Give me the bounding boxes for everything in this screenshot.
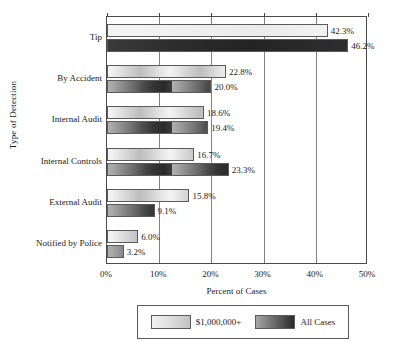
bar-value-label: 19.4% bbox=[211, 124, 234, 133]
bar-dark bbox=[107, 39, 348, 52]
chart-legend: $1,000,000+ All Cases bbox=[137, 305, 349, 339]
bar-value-label: 22.8% bbox=[229, 68, 252, 77]
bar-value-label: 18.6% bbox=[207, 109, 230, 118]
category-label: Internal Audit bbox=[52, 114, 102, 124]
bar-value-label: 9.1% bbox=[158, 207, 177, 216]
bar-group: Notified by Police6.0%3.2% bbox=[107, 224, 366, 265]
bar-dark bbox=[107, 121, 208, 134]
x-tick-label: 0% bbox=[100, 269, 112, 279]
category-label: Notified by Police bbox=[36, 238, 102, 248]
bar-group: Tip42.3%46.2% bbox=[107, 17, 366, 58]
bar-dark bbox=[107, 245, 124, 258]
x-axis-title: Percent of Cases bbox=[106, 286, 367, 296]
plot-area: Tip42.3%46.2%By Accident22.8%20.0%Intern… bbox=[106, 16, 367, 264]
legend-swatch-dark-icon bbox=[255, 315, 295, 329]
category-label: External Audit bbox=[49, 197, 102, 207]
bar-group: Internal Audit18.6%19.4% bbox=[107, 100, 366, 141]
bar-value-label: 15.8% bbox=[192, 192, 215, 201]
bar-light bbox=[107, 24, 328, 37]
bar-dark bbox=[107, 80, 211, 93]
x-tick bbox=[368, 13, 369, 17]
bar-dark bbox=[107, 204, 155, 217]
legend-label-light: $1,000,000+ bbox=[196, 317, 242, 327]
bar-value-label: 20.0% bbox=[214, 83, 237, 92]
legend-swatch-light-icon bbox=[151, 315, 191, 329]
x-tick-label: 20% bbox=[202, 269, 219, 279]
bar-value-label: 3.2% bbox=[127, 248, 146, 257]
bar-value-label: 16.7% bbox=[197, 151, 220, 160]
bar-dark bbox=[107, 163, 229, 176]
category-label: By Accident bbox=[57, 73, 102, 83]
x-tick-label: 30% bbox=[254, 269, 271, 279]
legend-label-dark: All Cases bbox=[300, 317, 335, 327]
bar-light bbox=[107, 65, 226, 78]
bar-value-label: 23.3% bbox=[232, 166, 255, 175]
x-tick-label: 10% bbox=[150, 269, 167, 279]
y-axis-title: Type of Detection bbox=[8, 50, 18, 180]
bar-value-label: 42.3% bbox=[331, 27, 354, 36]
bar-group: Internal Controls16.7%23.3% bbox=[107, 141, 366, 182]
x-tick-label: 50% bbox=[359, 269, 376, 279]
legend-item-dark: All Cases bbox=[255, 315, 335, 329]
bar-light bbox=[107, 189, 189, 202]
bar-chart: Type of Detection Tip42.3%46.2%By Accide… bbox=[0, 0, 397, 349]
legend-item-light: $1,000,000+ bbox=[151, 315, 242, 329]
bar-value-label: 46.2% bbox=[351, 42, 374, 51]
category-label: Internal Controls bbox=[41, 156, 102, 166]
bar-group: External Audit15.8%9.1% bbox=[107, 182, 366, 223]
bar-light bbox=[107, 106, 204, 119]
x-tick-label: 40% bbox=[307, 269, 324, 279]
bar-group: By Accident22.8%20.0% bbox=[107, 58, 366, 99]
category-label: Tip bbox=[90, 32, 102, 42]
bar-light bbox=[107, 230, 138, 243]
bar-value-label: 6.0% bbox=[141, 233, 160, 242]
bar-light bbox=[107, 148, 194, 161]
